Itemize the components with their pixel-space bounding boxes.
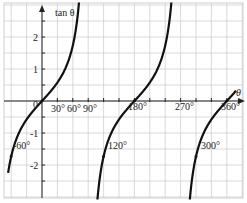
x-tick-270: 270° [175, 101, 194, 112]
y-axis-label: tan θ [55, 7, 75, 18]
y-tick-neg1: -1 [30, 128, 38, 139]
point-marker [10, 155, 13, 158]
y-tick-neg2: -2 [30, 160, 38, 171]
point-marker [41, 100, 44, 103]
point-marker [102, 155, 105, 158]
point-label-300: 300° [201, 140, 220, 151]
tan-graph: tan θ θ 0 30° 60° 90° 180° 270° 360° 2 1… [0, 0, 247, 203]
y-axis-arrow-icon [39, 5, 45, 12]
x-tick-180: 180° [128, 101, 147, 112]
x-tick-90: 90° [83, 103, 97, 114]
point-label-neg60: -60° [13, 140, 30, 151]
x-tick-60: 60° [67, 103, 81, 114]
x-tick-30: 30° [51, 103, 65, 114]
point-marker [195, 155, 198, 158]
y-tick-2: 2 [33, 32, 38, 43]
point-label-120: 120° [108, 140, 127, 151]
origin-label: 0 [33, 99, 38, 110]
x-tick-360: 360° [221, 101, 240, 112]
y-tick-1: 1 [33, 64, 38, 75]
x-axis-label: θ [236, 87, 241, 98]
